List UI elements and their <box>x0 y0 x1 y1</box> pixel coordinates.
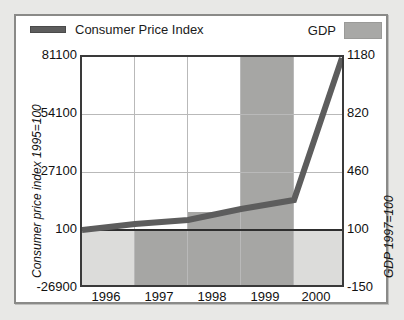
legend-label-consumer-price-index: Consumer Price Index <box>75 22 204 37</box>
chart-legend: Consumer Price Index GDP <box>16 20 390 44</box>
x-axis-tick-1996: 1996 <box>78 289 134 305</box>
y-axis-left-tick-4: -26900 <box>37 280 77 293</box>
y-axis-right-tick-1: 820 <box>347 106 369 119</box>
x-axis-ticks: 1996 1997 1998 1999 2000 <box>80 289 344 309</box>
x-axis-tick-1997: 1997 <box>131 289 187 305</box>
y-axis-left-ticks: 81100 54100 27100 100 -26900 <box>16 55 77 287</box>
y-axis-right-tick-0: 1180 <box>347 48 375 61</box>
y-axis-right-tick-4: -150 <box>347 280 373 293</box>
y-axis-left-tick-3: 100 <box>55 222 77 235</box>
page-top-caption <box>0 0 404 14</box>
bar-swatch-icon <box>344 22 382 39</box>
y-axis-right-tick-2: 460 <box>347 164 369 177</box>
legend-label-gdp: GDP <box>308 23 336 38</box>
line-series-consumer-price-index <box>82 57 342 285</box>
y-axis-left-tick-0: 81100 <box>42 48 77 61</box>
line-swatch-icon <box>30 26 66 33</box>
x-axis-tick-1998: 1998 <box>184 289 240 305</box>
y-axis-left-title: Consumer price index 1995=100 <box>30 104 44 278</box>
y-axis-right-tick-3: 100 <box>347 222 369 235</box>
chart-container: Consumer Price Index GDP 81100 54100 271… <box>14 14 388 304</box>
y-axis-left-tick-1: 54100 <box>41 106 77 119</box>
x-axis-tick-1999: 1999 <box>237 289 293 305</box>
y-axis-right-title: GDP 1997=100 <box>382 195 396 278</box>
y-axis-left-tick-2: 27100 <box>41 164 77 177</box>
legend-item-consumer-price-index: Consumer Price Index <box>30 22 204 37</box>
x-axis-tick-2000: 2000 <box>288 289 344 305</box>
legend-item-gdp: GDP <box>308 22 382 39</box>
plot-area <box>80 55 344 287</box>
